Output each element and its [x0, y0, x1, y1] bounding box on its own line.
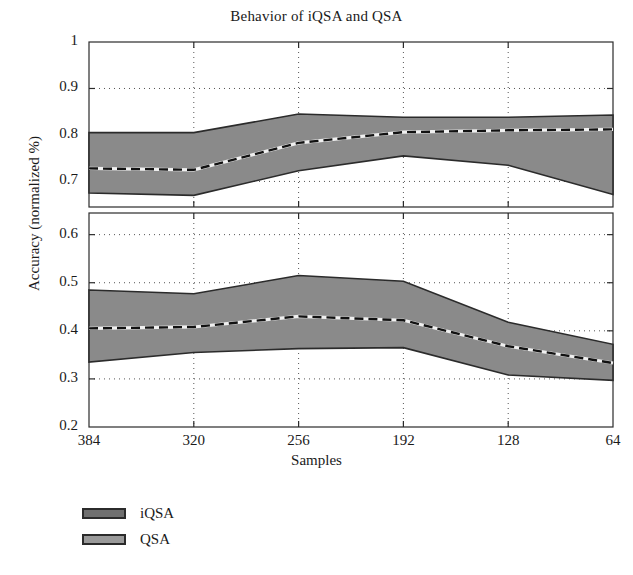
legend-swatch-icon	[82, 508, 126, 519]
x-tick-label: 320	[164, 432, 224, 449]
legend-swatch-icon	[82, 534, 126, 545]
x-tick-label: 64	[583, 432, 633, 449]
y-tick-label: 0.9	[32, 78, 78, 95]
legend-label: iQSA	[140, 506, 174, 521]
y-tick-label: 1	[32, 32, 78, 49]
legend: iQSAQSA	[82, 500, 174, 552]
legend-label: QSA	[140, 532, 170, 547]
figure: Behavior of iQSA and QSA Accuracy (norma…	[0, 0, 633, 575]
x-tick-label: 192	[373, 432, 433, 449]
legend-item-iqsa[interactable]: iQSA	[82, 500, 174, 526]
y-tick-label: 0.7	[32, 171, 78, 188]
y-tick-label: 0.8	[32, 125, 78, 142]
y-tick-label: 0.5	[32, 273, 78, 290]
x-tick-label: 256	[269, 432, 329, 449]
legend-item-qsa[interactable]: QSA	[82, 526, 174, 552]
y-tick-label: 0.3	[32, 369, 78, 386]
plot-area	[0, 0, 633, 575]
y-tick-label: 0.6	[32, 225, 78, 242]
y-tick-label: 0.4	[32, 321, 78, 338]
x-tick-label: 384	[59, 432, 119, 449]
x-tick-label: 128	[478, 432, 538, 449]
